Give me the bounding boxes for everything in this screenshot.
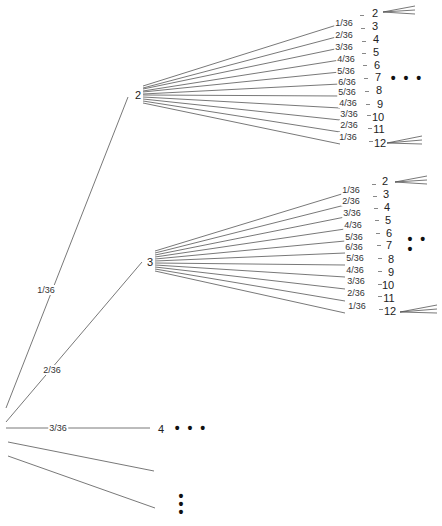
edge-label: 2/36 [334, 30, 354, 40]
edge-label: 6/36 [337, 77, 357, 87]
edge-label-root-3: 2/36 [42, 365, 62, 375]
ellipsis-horizontal-icon: • • • [408, 234, 431, 254]
node-4: 4 [158, 423, 164, 435]
edge-label: 1/36 [347, 301, 367, 311]
edge-root-to-5 [8, 442, 154, 471]
edge-label: 5/36 [336, 66, 356, 76]
edge-label: 1/36 [338, 132, 358, 142]
edge-root-to-3 [6, 262, 142, 422]
edge-label-root-4: 3/36 [48, 423, 68, 433]
leaf: 2 [372, 7, 378, 19]
ellipsis-horizontal-icon: • • • [391, 73, 423, 83]
ellipsis-vertical-icon: • • • [177, 492, 185, 516]
edge-label: 5/36 [344, 232, 364, 242]
leaf: 9 [388, 266, 394, 278]
node-2: 2 [135, 89, 141, 101]
edge-label: 1/36 [341, 185, 361, 195]
edge-label: 2/36 [341, 196, 361, 206]
leaf: 3 [383, 188, 389, 200]
edge-label: 4/36 [343, 220, 363, 230]
leaf: 10 [382, 279, 394, 291]
fan-node-3 [155, 193, 345, 313]
leaf: 8 [388, 253, 394, 265]
leaf: 7 [386, 239, 392, 251]
leaf: 4 [373, 33, 379, 45]
leaf: 6 [374, 59, 380, 71]
leaf: 6 [386, 227, 392, 239]
edge-label: 6/36 [344, 242, 364, 252]
leaf: 10 [372, 111, 384, 123]
edge-label: 4/36 [345, 265, 365, 275]
edge-label: 3/36 [339, 109, 359, 119]
edge-label: 2/36 [346, 288, 366, 298]
node-3: 3 [147, 256, 153, 268]
leaf: 11 [373, 123, 384, 135]
edge-label: 5/36 [345, 253, 365, 263]
leaf: 3 [372, 20, 378, 32]
edge-label-root-2: 1/36 [36, 285, 56, 295]
leaf: 11 [383, 292, 394, 304]
leaf: 12 [374, 137, 386, 149]
edge-label: 4/36 [336, 54, 356, 64]
edge-label: 2/36 [339, 120, 359, 130]
edge-root-to-6 [8, 456, 155, 508]
edge-label: 1/36 [334, 18, 354, 28]
edge-label: 3/36 [342, 208, 362, 218]
leaf: 7 [375, 71, 381, 83]
leaf: 5 [385, 214, 391, 226]
leaf: 9 [377, 98, 383, 110]
fan-node-2 [143, 24, 340, 144]
edge-root-to-2 [6, 97, 128, 408]
edge-label: 3/36 [334, 42, 354, 52]
edge-label: 3/36 [346, 276, 366, 286]
edge-label: 5/36 [337, 87, 357, 97]
leaf: 8 [376, 84, 382, 96]
leaf: 2 [382, 175, 388, 187]
ellipsis-horizontal-icon: • • • [175, 423, 207, 433]
edge-label: 4/36 [338, 98, 358, 108]
leaf: 4 [384, 201, 390, 213]
leaf: 5 [373, 46, 379, 58]
leaf: 12 [384, 305, 396, 317]
